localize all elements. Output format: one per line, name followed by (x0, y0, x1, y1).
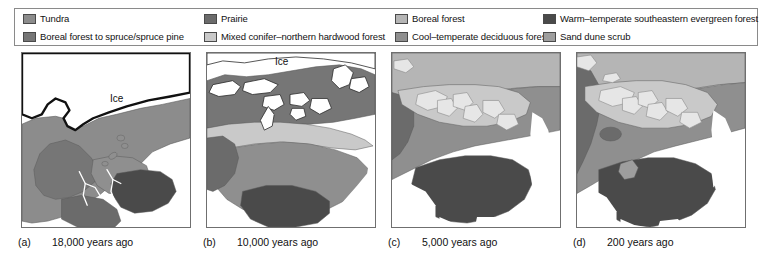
legend-item-boreal-to-spruce: Boreal forest to spruce/spruce pine (23, 29, 184, 44)
map-panel-c: (c) 5,000 years ago (391, 52, 561, 228)
legend-label-warm-temperate-evergreen: Warm–temperate southeastern evergreen fo… (560, 13, 758, 24)
legend-swatch-boreal-forest (395, 14, 408, 24)
legend-row-1: Tundra Prairie Boreal forest Warm–temper… (15, 9, 757, 28)
legend-item-mixed-conifer-hardwood: Mixed conifer–northern hardwood forest (204, 29, 385, 44)
legend-label-tundra: Tundra (40, 13, 69, 24)
legend-item-tundra: Tundra (23, 11, 69, 26)
legend-item-boreal-forest: Boreal forest (395, 11, 465, 26)
legend-swatch-tundra (23, 14, 36, 24)
legend-label-cool-temperate-deciduous: Cool–temperate deciduous forest (412, 31, 549, 42)
legend-label-boreal-forest: Boreal forest (412, 13, 465, 24)
panel-caption-text-d: 200 years ago (607, 236, 674, 248)
map-frame-b: Ice (206, 52, 376, 228)
legend-box: Tundra Prairie Boreal forest Warm–temper… (14, 8, 758, 46)
map-panel-a: Ice (a) 18,000 years ago (21, 52, 191, 228)
panel-caption-c: (c) 5,000 years ago (388, 234, 568, 250)
legend-swatch-sand-dune-scrub (543, 32, 556, 42)
legend-label-boreal-to-spruce: Boreal forest to spruce/spruce pine (40, 31, 184, 42)
panel-caption-text-b: 10,000 years ago (237, 236, 318, 248)
panel-tag-d: (d) (573, 236, 607, 248)
legend-item-cool-temperate-deciduous: Cool–temperate deciduous forest (395, 29, 549, 44)
legend-item-warm-temperate-evergreen: Warm–temperate southeastern evergreen fo… (543, 11, 758, 26)
panel-tag-c: (c) (388, 236, 422, 248)
map-image-10000-years-ago (207, 53, 375, 227)
panel-caption-text-a: 18,000 years ago (52, 236, 133, 248)
legend-item-sand-dune-scrub: Sand dune scrub (543, 29, 630, 44)
legend-label-mixed-conifer-hardwood: Mixed conifer–northern hardwood forest (221, 31, 385, 42)
panel-tag-a: (a) (18, 236, 52, 248)
panel-caption-text-c: 5,000 years ago (422, 236, 497, 248)
legend-label-prairie: Prairie (221, 13, 248, 24)
panel-caption-d: (d) 200 years ago (573, 234, 753, 250)
map-image-5000-years-ago (392, 53, 560, 227)
panel-caption-b: (b) 10,000 years ago (203, 234, 383, 250)
legend-swatch-mixed-conifer-hardwood (204, 32, 217, 42)
map-panel-d: (d) 200 years ago (576, 52, 746, 228)
map-panel-b: Ice (b) 10,000 years ago (206, 52, 376, 228)
map-frame-c (391, 52, 561, 228)
legend-row-2: Boreal forest to spruce/spruce pine Mixe… (15, 27, 757, 46)
map-panel-row: Ice (a) 18,000 years ago (0, 52, 772, 267)
map-image-200-years-ago (577, 53, 745, 227)
map-image-18000-years-ago (22, 53, 190, 227)
legend-swatch-prairie (204, 14, 217, 24)
panel-tag-b: (b) (203, 236, 237, 248)
legend-item-prairie: Prairie (204, 11, 248, 26)
legend-swatch-boreal-to-spruce (23, 32, 36, 42)
legend-swatch-cool-temperate-deciduous (395, 32, 408, 42)
map-frame-d (576, 52, 746, 228)
panel-caption-a: (a) 18,000 years ago (18, 234, 198, 250)
legend-label-sand-dune-scrub: Sand dune scrub (560, 31, 630, 42)
map-frame-a: Ice (21, 52, 191, 228)
legend-swatch-warm-temperate-evergreen (543, 14, 556, 24)
